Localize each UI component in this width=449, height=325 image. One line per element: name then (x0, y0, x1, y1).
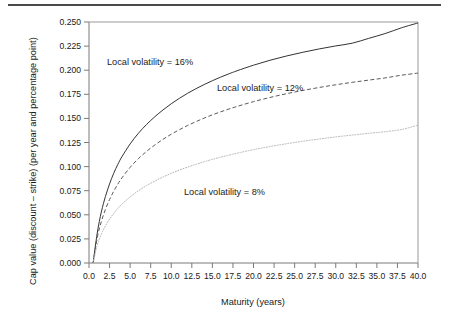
y-tick-label: 0.100 (59, 162, 81, 172)
curve-12-percent (93, 73, 418, 263)
plot-frame (89, 22, 418, 263)
y-tick-label: 0.050 (59, 210, 81, 220)
y-tick-label: 0.175 (59, 89, 81, 99)
y-tick-label: 0.225 (59, 41, 81, 51)
x-tick-label: 15.0 (204, 271, 221, 281)
x-tick-label: 27.5 (307, 271, 324, 281)
curve-16-percent (93, 23, 418, 263)
x-tick-label: 20.0 (245, 271, 262, 281)
x-tick-label: 2.5 (104, 271, 116, 281)
x-tick-label: 35.0 (369, 271, 386, 281)
x-tick-label: 37.5 (389, 271, 406, 281)
x-tick-label: 22.5 (266, 271, 283, 281)
x-tick-label: 5.0 (124, 271, 136, 281)
x-tick-label: 7.5 (145, 271, 157, 281)
chart-figure: 0.0000.0250.0500.0750.1000.1250.1500.175… (0, 0, 449, 325)
data-curves (93, 23, 418, 263)
x-tick-label: 32.5 (348, 271, 365, 281)
x-tick-label: 0.0 (83, 271, 95, 281)
x-tick-label: 25.0 (286, 271, 303, 281)
y-tick-label: 0.125 (59, 138, 81, 148)
x-tick-label: 10.0 (163, 271, 180, 281)
y-tick-label: 0.150 (59, 113, 81, 123)
y-tick-label: 0.200 (59, 65, 81, 75)
y-tick-label: 0.025 (59, 234, 81, 244)
x-tick-label: 30.0 (327, 271, 344, 281)
x-tick-label: 17.5 (225, 271, 242, 281)
y-tick-label: 0.250 (59, 17, 81, 27)
y-axis-ticks: 0.0000.0250.0500.0750.1000.1250.1500.175… (59, 17, 89, 268)
y-tick-label: 0.075 (59, 186, 81, 196)
curve-8-percent (93, 125, 418, 263)
y-tick-label: 0.000 (59, 258, 81, 268)
line-chart-svg: 0.0000.0250.0500.0750.1000.1250.1500.175… (0, 0, 449, 325)
x-tick-label: 40.0 (410, 271, 427, 281)
x-tick-label: 12.5 (183, 271, 200, 281)
x-axis-ticks: 0.02.55.07.510.012.515.017.520.022.525.0… (83, 263, 427, 281)
